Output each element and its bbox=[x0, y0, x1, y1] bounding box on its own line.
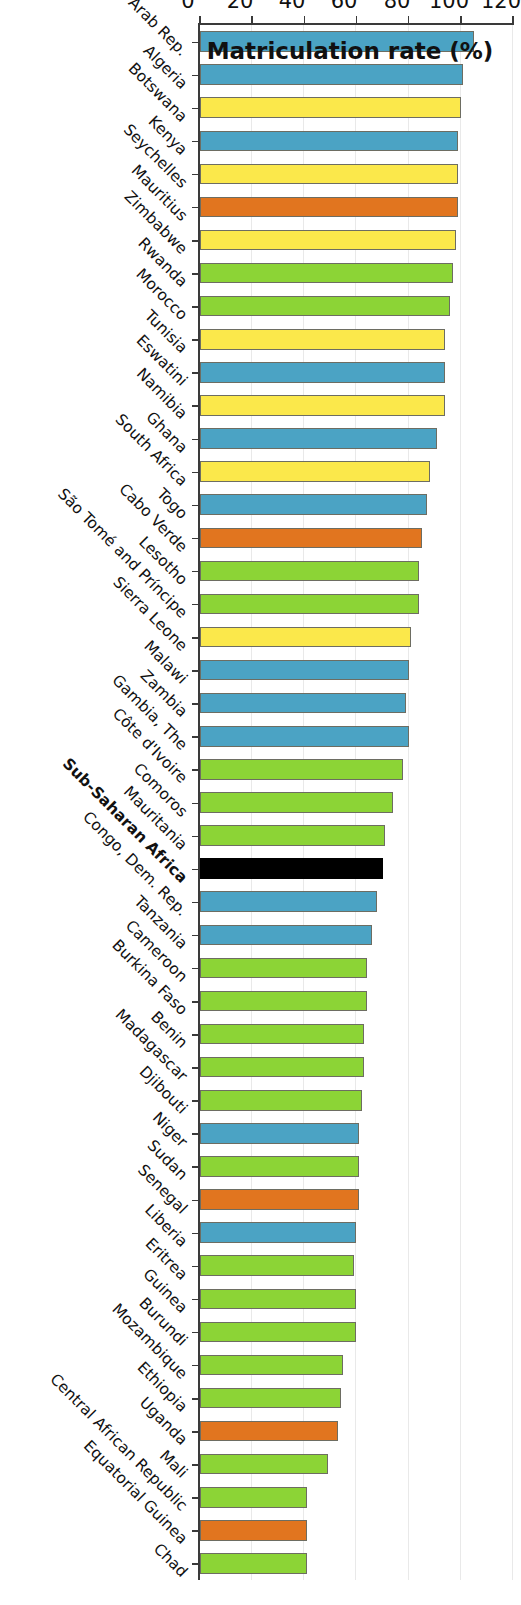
category-tick bbox=[192, 703, 200, 705]
category-tick bbox=[192, 1067, 200, 1069]
bar bbox=[200, 561, 419, 582]
value-tick-label: 80 bbox=[383, 0, 410, 13]
category-tick bbox=[192, 306, 200, 308]
value-tick bbox=[460, 16, 462, 25]
value-tick bbox=[251, 16, 253, 25]
value-tick bbox=[199, 16, 201, 25]
value-tick-label: 0 bbox=[181, 0, 194, 13]
category-tick bbox=[192, 174, 200, 176]
bar bbox=[200, 1057, 364, 1078]
category-tick bbox=[192, 439, 200, 441]
bar bbox=[200, 395, 445, 416]
category-tick bbox=[192, 869, 200, 871]
bar bbox=[200, 131, 458, 152]
category-tick bbox=[192, 75, 200, 77]
bar bbox=[200, 858, 383, 879]
category-tick bbox=[192, 1001, 200, 1003]
bar bbox=[200, 97, 461, 118]
category-tick bbox=[192, 1530, 200, 1532]
category-tick bbox=[192, 207, 200, 209]
category-tick bbox=[192, 1166, 200, 1168]
category-tick bbox=[192, 472, 200, 474]
category-tick bbox=[192, 1233, 200, 1235]
category-tick bbox=[192, 405, 200, 407]
category-tick bbox=[192, 1266, 200, 1268]
bar bbox=[200, 1322, 357, 1343]
bar bbox=[200, 1255, 354, 1276]
category-tick bbox=[192, 836, 200, 838]
bar bbox=[200, 428, 437, 449]
category-tick bbox=[192, 1464, 200, 1466]
category-tick bbox=[192, 538, 200, 540]
bar bbox=[200, 991, 367, 1012]
value-axis-cap bbox=[512, 16, 514, 25]
value-axis: 020406080100120 bbox=[198, 0, 513, 25]
category-tick bbox=[192, 935, 200, 937]
category-tick bbox=[192, 339, 200, 341]
bar bbox=[200, 1024, 364, 1045]
bar bbox=[200, 594, 419, 615]
bar bbox=[200, 164, 458, 185]
bar bbox=[200, 792, 393, 813]
category-tick bbox=[192, 1431, 200, 1433]
category-tick bbox=[192, 505, 200, 507]
plot-area bbox=[200, 25, 513, 1580]
category-tick bbox=[192, 1398, 200, 1400]
bar bbox=[200, 891, 377, 912]
bar bbox=[200, 296, 450, 317]
bar bbox=[200, 1421, 338, 1442]
value-tick-label: 20 bbox=[227, 0, 254, 13]
category-tick bbox=[192, 803, 200, 805]
category-tick bbox=[192, 736, 200, 738]
bar bbox=[200, 627, 411, 648]
bar bbox=[200, 1520, 307, 1541]
category-tick bbox=[192, 1133, 200, 1135]
bar bbox=[200, 528, 422, 549]
bar bbox=[200, 362, 445, 383]
category-tick bbox=[192, 108, 200, 110]
category-tick bbox=[192, 1100, 200, 1102]
bar bbox=[200, 1454, 328, 1475]
category-tick bbox=[192, 1332, 200, 1334]
bar bbox=[200, 925, 372, 946]
bar bbox=[200, 825, 385, 846]
value-tick bbox=[356, 16, 358, 25]
category-tick bbox=[192, 42, 200, 44]
category-tick bbox=[192, 1200, 200, 1202]
bar bbox=[200, 958, 367, 979]
bar bbox=[200, 660, 409, 681]
category-tick bbox=[192, 273, 200, 275]
y-axis-title: Matriculation rate (%) bbox=[207, 38, 494, 64]
category-tick bbox=[192, 141, 200, 143]
category-label: Chad bbox=[150, 1540, 191, 1581]
category-tick bbox=[192, 637, 200, 639]
bar bbox=[200, 1487, 307, 1508]
category-tick bbox=[192, 372, 200, 374]
value-tick-label: 60 bbox=[331, 0, 358, 13]
category-label: Egypt, Arab Rep. bbox=[86, 0, 191, 59]
category-tick bbox=[192, 1299, 200, 1301]
category-tick bbox=[192, 1034, 200, 1036]
bar bbox=[200, 197, 458, 218]
category-tick bbox=[192, 1497, 200, 1499]
bar bbox=[200, 1553, 307, 1574]
category-tick bbox=[192, 769, 200, 771]
bar bbox=[200, 494, 427, 515]
category-tick bbox=[192, 604, 200, 606]
bar bbox=[200, 1388, 341, 1409]
bar bbox=[200, 726, 409, 747]
bar bbox=[200, 263, 453, 284]
bar bbox=[200, 1090, 362, 1111]
value-tick-label: 40 bbox=[279, 0, 306, 13]
bar bbox=[200, 1123, 359, 1144]
category-tick bbox=[192, 968, 200, 970]
value-tick-label: 120 bbox=[481, 0, 521, 13]
bar bbox=[200, 759, 403, 780]
bar bbox=[200, 1222, 357, 1243]
bar bbox=[200, 230, 456, 251]
gridline bbox=[408, 25, 409, 1580]
bar bbox=[200, 64, 463, 85]
bar bbox=[200, 1355, 343, 1376]
category-tick bbox=[192, 670, 200, 672]
